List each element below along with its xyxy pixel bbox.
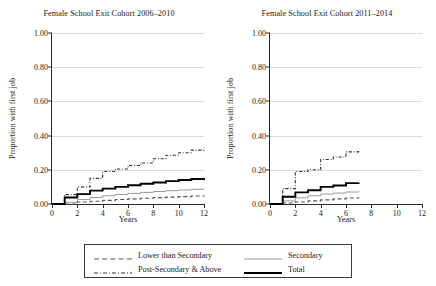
legend-label-post-secondary-above: Post-Secondary & Above — [138, 265, 221, 274]
x-tick-mark — [103, 204, 104, 208]
chart-figure: Female School Exit Cohort 2006–2010 Prop… — [0, 0, 436, 286]
x-tick-mark — [179, 204, 180, 208]
y-tick-label: 1.00 — [252, 29, 266, 38]
legend-swatch-thick-solid-icon — [243, 264, 283, 274]
legend-swatch-thin-solid-icon — [243, 250, 283, 260]
x-tick-mark — [422, 204, 423, 208]
chart-legend: Lower than Secondary Secondary Post-Seco… — [84, 244, 352, 278]
legend-label-secondary: Secondary — [288, 251, 323, 260]
y-tick-label: 0.80 — [252, 63, 266, 72]
x-tick-mark — [153, 204, 154, 208]
x-tick-mark — [128, 204, 129, 208]
y-axis-label-right-text: Proportion with first job — [227, 78, 236, 159]
legend-grid: Lower than Secondary Secondary Post-Seco… — [93, 248, 343, 276]
series-line-secondary — [52, 189, 204, 204]
y-tick-label: 0.40 — [252, 131, 266, 140]
x-tick-mark — [397, 204, 398, 208]
series-lines-right — [270, 33, 422, 204]
y-tick-label: 0.00 — [252, 200, 266, 209]
plot-area-right: 0.000.200.400.600.801.00 024681012 — [270, 33, 422, 204]
legend-item-lower-than-secondary: Lower than Secondary — [93, 250, 243, 260]
legend-label-total: Total — [288, 265, 305, 274]
y-axis-label-left: Proportion with first job — [6, 33, 20, 204]
x-tick-mark — [295, 204, 296, 208]
y-tick-label: 0.60 — [34, 97, 48, 106]
x-tick-mark — [321, 204, 322, 208]
y-tick-label: 0.40 — [34, 131, 48, 140]
legend-item-secondary: Secondary — [243, 250, 361, 260]
x-axis-label-right: Years — [270, 215, 422, 224]
y-tick-label: 0.80 — [34, 63, 48, 72]
y-tick-label: 0.00 — [34, 200, 48, 209]
y-axis-label-right: Proportion with first job — [224, 33, 238, 204]
legend-item-total: Total — [243, 264, 361, 274]
y-axis-label-left-text: Proportion with first job — [9, 78, 18, 159]
series-lines-left — [52, 33, 204, 204]
x-tick-mark — [77, 204, 78, 208]
legend-swatch-dashed-icon — [93, 250, 133, 260]
series-line-post-secondary-above — [52, 148, 204, 204]
y-tick-label: 0.20 — [252, 165, 266, 174]
x-tick-mark — [204, 204, 205, 208]
x-axis-label-left: Years — [52, 215, 204, 224]
x-tick-mark — [371, 204, 372, 208]
y-tick-label: 1.00 — [34, 29, 48, 38]
chart-panel-left: Female School Exit Cohort 2006–2010 Prop… — [0, 0, 218, 232]
y-tick-label: 0.20 — [34, 165, 48, 174]
panel-title-right: Female School Exit Cohort 2011–2014 — [218, 9, 436, 18]
plot-area-left: 0.000.200.400.600.801.00 024681012 — [52, 33, 204, 204]
panel-title-left: Female School Exit Cohort 2006–2010 — [0, 9, 218, 18]
chart-panel-right: Female School Exit Cohort 2011–2014 Prop… — [218, 0, 436, 232]
legend-label-lower-than-secondary: Lower than Secondary — [138, 251, 212, 260]
legend-swatch-dash-dot-icon — [93, 264, 133, 274]
x-tick-mark — [346, 204, 347, 208]
y-tick-label: 0.60 — [252, 97, 266, 106]
legend-item-post-secondary-above: Post-Secondary & Above — [93, 264, 243, 274]
